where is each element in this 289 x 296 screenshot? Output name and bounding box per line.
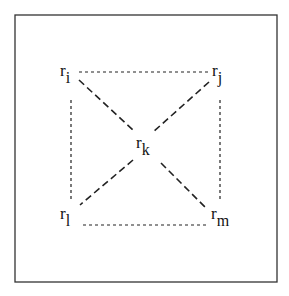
- node-base: r: [136, 133, 142, 152]
- node-label-r-j: rj: [212, 62, 222, 79]
- node-base: r: [60, 204, 66, 223]
- node-base: r: [212, 61, 218, 80]
- node-base: r: [211, 204, 217, 223]
- edge-i-k: [79, 80, 133, 130]
- edge-k-m: [161, 163, 206, 208]
- node-subscript: k: [142, 141, 150, 158]
- node-label-r-m: rm: [211, 205, 229, 222]
- edge-j-k: [152, 82, 209, 133]
- node-label-r-l: rl: [60, 205, 70, 222]
- node-base: r: [60, 61, 66, 80]
- node-subscript: j: [218, 69, 222, 86]
- node-subscript: l: [66, 212, 70, 229]
- node-label-r-i: ri: [60, 62, 70, 79]
- node-subscript: m: [217, 212, 229, 229]
- edge-k-l: [80, 160, 133, 205]
- node-label-r-k: rk: [136, 134, 150, 151]
- node-subscript: i: [66, 69, 70, 86]
